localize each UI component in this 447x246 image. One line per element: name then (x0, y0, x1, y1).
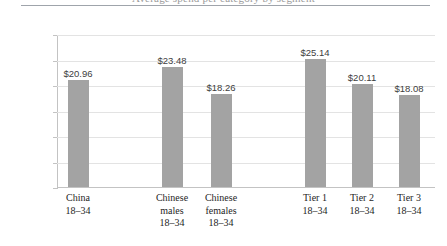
chart-figure: Average spend per category by segment $3… (0, 0, 447, 246)
bar-china-18-34[interactable] (68, 80, 89, 187)
bar-value-label-chinese-females-18-34: $18.26 (191, 82, 251, 93)
bar-value-label-chinese-males-18-34: $23.48 (142, 55, 202, 66)
bar-tier-2-18-34[interactable] (352, 84, 373, 187)
y-axis-tick-mark (53, 137, 57, 138)
x-axis-category-label-chinese-females-18-34: Chinese females 18–34 (184, 192, 258, 230)
title-separator-rule (21, 5, 430, 6)
bar-value-label-china-18-34: $20.96 (48, 68, 108, 79)
gridline (57, 35, 435, 36)
y-axis-tick-mark (53, 112, 57, 113)
y-axis-tick-mark (53, 61, 57, 62)
bar-chinese-males-18-34[interactable] (162, 67, 183, 187)
bar-value-label-tier-1-18-34: $25.14 (285, 47, 345, 58)
gridline (57, 137, 435, 138)
plot-area (57, 35, 435, 188)
bar-tier-3-18-34[interactable] (399, 95, 420, 187)
bar-value-label-tier-3-18-34: $18.08 (379, 83, 439, 94)
y-axis-tick-mark (53, 163, 57, 164)
y-axis-tick-mark (53, 188, 57, 189)
x-axis-category-label-tier-3-18-34: Tier 3 18–34 (372, 192, 446, 217)
bar-chinese-females-18-34[interactable] (211, 94, 232, 187)
y-axis-tick-mark (53, 35, 57, 36)
y-axis-tick-mark (53, 86, 57, 87)
bar-tier-1-18-34[interactable] (305, 59, 326, 187)
x-axis-baseline (57, 187, 435, 188)
x-axis-category-label-china-18-34: China 18–34 (41, 192, 115, 217)
gridline (57, 61, 435, 62)
gridline (57, 112, 435, 113)
bar-value-label-tier-2-18-34: $20.11 (332, 72, 392, 83)
gridline (57, 163, 435, 164)
